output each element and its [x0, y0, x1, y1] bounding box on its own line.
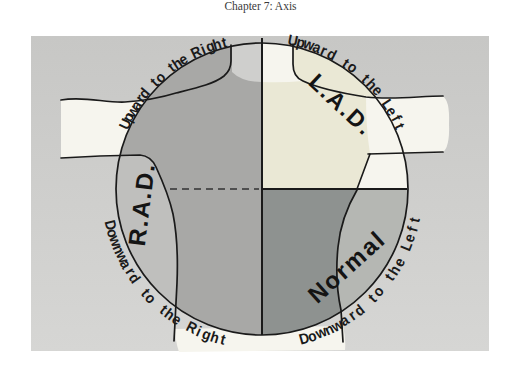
book-page: Chapter 7: Axis [0, 0, 521, 369]
axis-quadrant-diagram [0, 0, 521, 369]
